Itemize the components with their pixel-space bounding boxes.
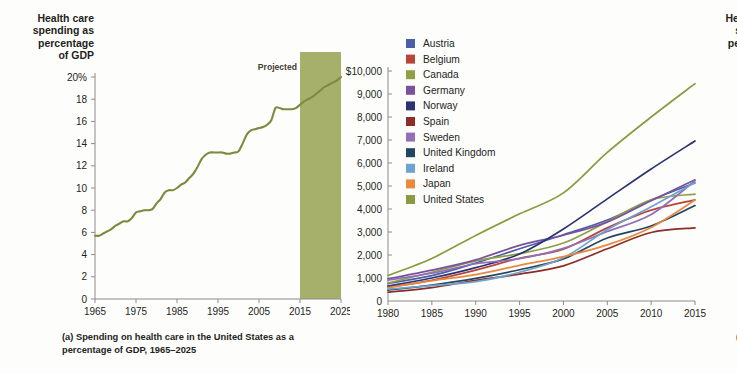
- panel-b-ytick-label: 2,000: [357, 250, 382, 261]
- legend-swatch: [406, 101, 415, 110]
- legend-item-norway[interactable]: Norway: [406, 100, 458, 111]
- legend-swatch: [406, 148, 415, 157]
- panel-b-ytick-label: 3,000: [357, 227, 382, 238]
- legend-label: United States: [423, 194, 484, 205]
- panel-b-xtick-label: 1990: [465, 308, 488, 319]
- legend-label: Austria: [423, 38, 455, 49]
- legend-item-belgium[interactable]: Belgium: [406, 54, 460, 65]
- panel-a-ytick-label: 12: [76, 160, 88, 171]
- legend-label: Ireland: [423, 163, 454, 174]
- panel-a-xtick-label: 1975: [125, 306, 148, 317]
- legend-swatch: [406, 195, 415, 204]
- panel-a-ytick-label: 8: [81, 205, 87, 216]
- legend-item-germany[interactable]: Germany: [406, 85, 466, 96]
- legend-item-japan[interactable]: Japan: [406, 178, 451, 189]
- panel-b-ytick-label: 7,000: [357, 135, 382, 146]
- panel-b-series-belgium: [388, 200, 695, 287]
- legend-label: Spain: [423, 116, 449, 127]
- panel-b-plot: 01,0002,0003,0004,0005,0006,0007,0008,00…: [340, 0, 737, 330]
- panel-a-gdp-share: Health care spending as percentage of GD…: [0, 0, 350, 374]
- panel-a-ytick-label: 18: [76, 94, 88, 105]
- panel-b-ytick-label: 0: [376, 296, 382, 307]
- panel-b-ytick-label: 4,000: [357, 204, 382, 215]
- panel-a-ytick-label: 0: [81, 294, 87, 305]
- panel-b-xtick-label: 2015: [684, 308, 707, 319]
- legend-swatch: [406, 86, 415, 95]
- legend-label: Belgium: [423, 54, 460, 65]
- panel-a-xtick-label: 1995: [207, 306, 230, 317]
- panel-b-ytick-label: 6,000: [357, 158, 382, 169]
- panel-b-spending-per-person: Health care spending per person 01,0002,…: [340, 0, 737, 374]
- panel-a-ytick-label: 16: [76, 116, 88, 127]
- legend-swatch: [406, 133, 415, 142]
- panel-b-xtick-label: 2000: [552, 308, 575, 319]
- projected-band-label: Projected: [258, 62, 297, 72]
- panel-b-axis-title: Health care spending per person: [692, 12, 737, 49]
- legend-label: Japan: [423, 178, 451, 189]
- panel-a-xtick-label: 1985: [166, 306, 189, 317]
- legend-swatch: [406, 39, 415, 48]
- panel-b-xtick-label: 2005: [596, 308, 619, 319]
- panel-b-ytick-label: 9,000: [357, 89, 382, 100]
- legend-item-canada[interactable]: Canada: [406, 69, 459, 80]
- panel-a-xtick-label: 2015: [289, 306, 312, 317]
- legend-item-ireland[interactable]: Ireland: [406, 163, 454, 174]
- panel-a-ytick-label: 14: [76, 138, 88, 149]
- panel-a-caption: (a) Spending on health care in the Unite…: [62, 331, 328, 357]
- panel-a-ytick-label: 4: [81, 249, 87, 260]
- panel-b-xtick-label: 1980: [377, 308, 400, 319]
- panel-a-xtick-label: 2005: [248, 306, 271, 317]
- legend-item-united-states[interactable]: United States: [406, 194, 484, 205]
- legend-label: Norway: [423, 100, 458, 111]
- legend-label: Germany: [423, 85, 466, 96]
- panel-a-ytick-label: 20%: [67, 72, 87, 83]
- panel-b-xtick-label: 1985: [421, 308, 444, 319]
- legend-swatch: [406, 117, 415, 126]
- figure-root: Health care spending as percentage of GD…: [0, 0, 737, 374]
- legend-label: Sweden: [423, 132, 460, 143]
- panel-a-axis-title: Health care spending as percentage of GD…: [2, 12, 94, 62]
- panel-a-ytick-label: 10: [76, 183, 88, 194]
- panel-a-ytick-label: 6: [81, 227, 87, 238]
- panel-b-ytick-label: 8,000: [357, 112, 382, 123]
- legend-swatch: [406, 179, 415, 188]
- panel-b-xtick-label: 1995: [508, 308, 531, 319]
- legend-item-spain[interactable]: Spain: [406, 116, 449, 127]
- legend-swatch: [406, 70, 415, 79]
- legend-label: Canada: [423, 69, 459, 80]
- legend-swatch: [406, 55, 415, 64]
- panel-b-xtick-label: 2010: [640, 308, 663, 319]
- panel-a-ytick-label: 2: [81, 271, 87, 282]
- panel-a-xtick-label: 1965: [84, 306, 107, 317]
- panel-b-ytick-label: $10,000: [346, 66, 383, 77]
- legend-label: United Kingdom: [423, 147, 496, 158]
- legend-item-austria[interactable]: Austria: [406, 38, 455, 49]
- panel-b-ytick-label: 1,000: [357, 273, 382, 284]
- panel-b-ytick-label: 5,000: [357, 181, 382, 192]
- panel-b-series-spain: [388, 228, 695, 292]
- legend-swatch: [406, 164, 415, 173]
- legend-item-sweden[interactable]: Sweden: [406, 132, 460, 143]
- legend-item-united-kingdom[interactable]: United Kingdom: [406, 147, 496, 158]
